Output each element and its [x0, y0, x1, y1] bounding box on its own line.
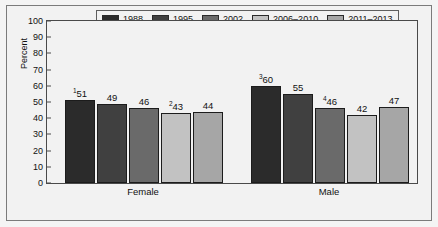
- bar: 243: [161, 113, 191, 183]
- bar-value-label: 243: [169, 102, 183, 112]
- bar-value-number: 42: [357, 103, 368, 114]
- bar-value-label: 46: [139, 97, 150, 107]
- bar-value-label: 47: [389, 96, 400, 106]
- bars-layer: 151494624344360554464247: [47, 21, 417, 183]
- bar: 44: [193, 112, 223, 183]
- y-axis-tick-label: 0: [38, 178, 47, 188]
- bar: 42: [347, 115, 377, 183]
- bar-value-label: 42: [357, 104, 368, 114]
- bar: 360: [251, 86, 281, 183]
- y-axis-tick-label: 80: [33, 48, 47, 58]
- bar-value-label: 55: [293, 83, 304, 93]
- bar-value-number: 49: [107, 92, 118, 103]
- chart-figure: 1988199520022006–20102011–2013 Percent 1…: [0, 0, 438, 227]
- bar-value-label: 49: [107, 93, 118, 103]
- bar-value-label: 360: [259, 75, 273, 85]
- bar-value-number: 55: [293, 82, 304, 93]
- y-axis-tick-label: 30: [33, 129, 47, 139]
- y-axis-tick-label: 10: [33, 162, 47, 172]
- bar-value-number: 46: [139, 96, 150, 107]
- y-axis-tick-label: 60: [33, 81, 47, 91]
- y-axis-tick-label: 90: [33, 32, 47, 42]
- x-axis-group-label: Female: [127, 186, 159, 197]
- plot-area: Percent 1009080706050403020100 151494624…: [46, 20, 418, 184]
- bar-value-number: 51: [77, 88, 88, 99]
- bar-value-label: 151: [73, 89, 87, 99]
- bar: 151: [65, 100, 95, 183]
- bar-value-label: 44: [203, 101, 214, 111]
- bar: 49: [97, 104, 127, 183]
- bar-value-number: 43: [173, 101, 184, 112]
- bar-value-number: 46: [327, 96, 338, 107]
- bar: 446: [315, 108, 345, 183]
- x-axis-group-label: Male: [319, 186, 340, 197]
- y-axis-tick-label: 100: [28, 16, 47, 26]
- bar-value-label: 446: [323, 97, 337, 107]
- bar-value-number: 44: [203, 100, 214, 111]
- bar-value-number: 60: [263, 74, 274, 85]
- bar: 55: [283, 94, 313, 183]
- bar: 47: [379, 107, 409, 183]
- bar-value-number: 47: [389, 95, 400, 106]
- y-axis-tick-label: 50: [33, 97, 47, 107]
- y-axis-tick-label: 40: [33, 113, 47, 123]
- y-axis-tick-label: 70: [33, 65, 47, 75]
- y-axis-tick-label: 20: [33, 146, 47, 156]
- y-axis-title: Percent: [19, 38, 29, 69]
- bar: 46: [129, 108, 159, 183]
